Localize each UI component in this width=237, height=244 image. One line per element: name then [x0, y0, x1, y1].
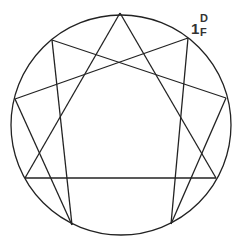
- outer-circle: [11, 15, 231, 235]
- label-subscript: F: [200, 27, 207, 38]
- edge-P1-P4: [171, 38, 188, 224]
- label-number: 1: [191, 21, 199, 36]
- edge-P8-P5: [52, 40, 72, 225]
- point-label-1: 1 D F: [190, 12, 214, 40]
- edge-P7-P1: [15, 38, 188, 99]
- edge-P2-P4: [171, 98, 226, 224]
- edge-P7-P5: [15, 99, 72, 225]
- label-superscript: D: [200, 13, 208, 24]
